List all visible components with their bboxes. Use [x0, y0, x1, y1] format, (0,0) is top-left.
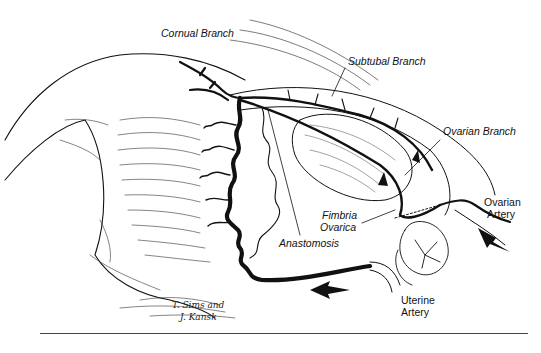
- fimbria-ovarica-drawing: [396, 221, 449, 285]
- uterine-artery-distal: [370, 262, 400, 292]
- tube-flow-arrow-1: [378, 172, 388, 186]
- label-ovarian-artery-line2: Artery: [487, 209, 515, 220]
- tube-flow-arrow-2: [412, 150, 420, 163]
- ovarian-flow-arrow: [478, 228, 510, 252]
- label-subtubal-branch: Subtubal Branch: [348, 56, 426, 67]
- uterus-shading: [60, 118, 235, 318]
- label-uterine-artery-line1: Uterine: [401, 295, 435, 306]
- anatomical-illustration: Cornual Branch Subtubal Branch Ovarian B…: [0, 0, 541, 353]
- label-anastomosis: Anastomosis: [279, 238, 339, 249]
- label-cornual-branch: Cornual Branch: [161, 28, 234, 39]
- ovarian-branch-leader: [405, 140, 440, 175]
- uterus-outline: [5, 54, 245, 318]
- label-ovarian-branch: Ovarian Branch: [443, 126, 516, 137]
- label-fimbria-line1: Fimbria: [322, 210, 357, 221]
- label-uterine-artery-line2: Artery: [401, 307, 429, 318]
- artist-signature-line1: T. Sims and: [172, 300, 224, 311]
- tube-outline-upper: [230, 88, 495, 195]
- label-ovarian-artery-line1: Ovarian: [484, 197, 521, 208]
- uterine-flow-arrow: [310, 281, 350, 299]
- bottom-divider: [40, 333, 528, 334]
- uterine-ovarian-vessel-drawing: [0, 0, 541, 353]
- uterine-artery-vessel: [227, 98, 370, 280]
- anastomosis-vessel: [250, 108, 280, 258]
- label-fimbria-line2: Ovarica: [320, 222, 356, 233]
- fimbria-leader: [362, 210, 395, 223]
- artist-signature-line2: J. Kansk: [180, 312, 217, 323]
